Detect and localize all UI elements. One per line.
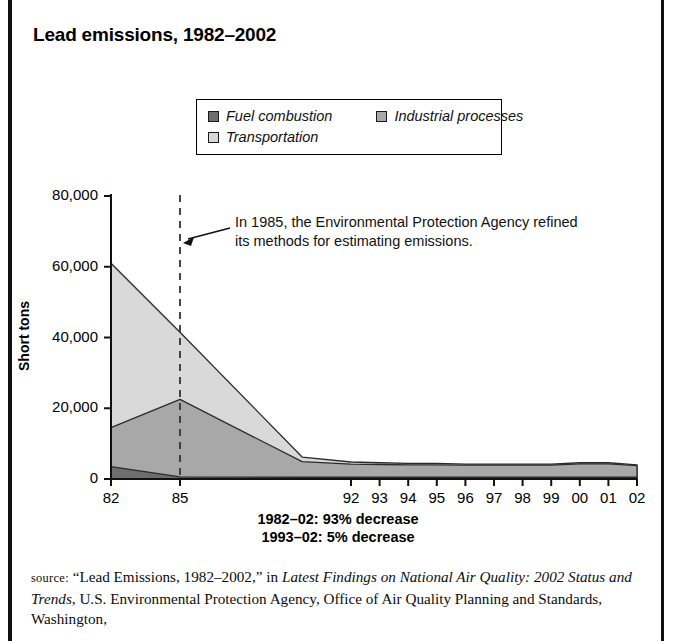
annotation-arrow-shaft [188, 228, 230, 239]
y-axis-tick-label: 0 [0, 469, 98, 486]
area-industrial-processes [111, 399, 637, 479]
area-transportation [111, 263, 637, 479]
footnote-line-2: 1993–02: 5% decrease [0, 529, 676, 545]
legend-label-transportation: Transportation [226, 129, 318, 145]
y-axis-tick-label: 60,000 [0, 257, 98, 274]
legend-item-fuel-combustion: Fuel combustion [208, 108, 332, 124]
chart-annotation-line-1: In 1985, the Environmental Protection Ag… [235, 213, 578, 232]
y-axis-tick-label: 80,000 [0, 186, 98, 203]
area-fuel-combustion [111, 467, 637, 479]
legend-row-1: Fuel combustion Industrial processes [208, 108, 523, 124]
figure-page: Lead emissions, 1982–2002 Fuel combustio… [0, 0, 676, 641]
page-title: Lead emissions, 1982–2002 [33, 24, 276, 46]
legend-swatch-transportation [208, 132, 219, 143]
chart-legend: Fuel combustion Industrial processes Tra… [196, 99, 502, 155]
legend-item-transportation: Transportation [208, 129, 318, 145]
annotation-arrow-head [183, 237, 194, 246]
legend-swatch-fuel-combustion [208, 111, 219, 122]
legend-label-industrial-processes: Industrial processes [394, 108, 523, 124]
source-label: source: [31, 571, 69, 585]
y-axis-tick-label: 40,000 [0, 328, 98, 345]
chart-annotation: In 1985, the Environmental Protection Ag… [235, 213, 578, 251]
x-axis-tick-label: 02 [617, 489, 657, 506]
legend-item-industrial-processes: Industrial processes [376, 108, 523, 124]
x-axis-tick-label: 85 [160, 489, 200, 506]
source-citation: source: “Lead Emissions, 1982–2002,” in … [31, 567, 635, 630]
source-quoted-title: “Lead Emissions, 1982–2002,” [73, 568, 263, 585]
x-axis-tick-label: 82 [91, 489, 131, 506]
chart-annotation-line-2: its methods for estimating emissions. [235, 232, 578, 251]
legend-row-2: Transportation [208, 129, 318, 145]
legend-swatch-industrial-processes [376, 111, 387, 122]
source-connector: in [263, 568, 282, 585]
footnote-line-1: 1982–02: 93% decrease [0, 511, 676, 527]
legend-label-fuel-combustion: Fuel combustion [226, 108, 332, 124]
y-axis-tick-label: 20,000 [0, 398, 98, 415]
source-rest: , U.S. Environmental Protection Agency, … [31, 590, 602, 628]
